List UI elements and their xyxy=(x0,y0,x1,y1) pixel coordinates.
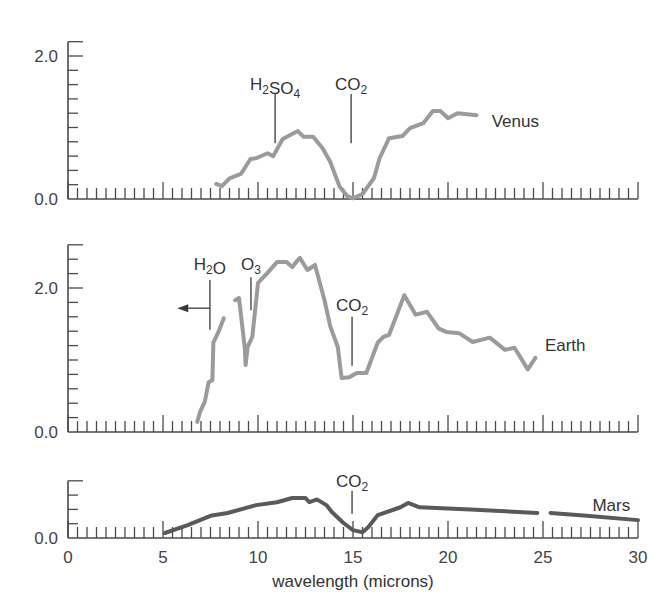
absorption-label: O3 xyxy=(241,255,261,277)
absorption-label: H2O xyxy=(194,255,226,278)
y-tick-label: 0.0 xyxy=(34,190,58,209)
x-tick-label: 10 xyxy=(249,548,268,567)
x-axis-title: wavelength (microns) xyxy=(271,572,434,591)
spectra-figure: 0.02.0H2SO4CO2Venus0.02.0H2OO3CO2Earth0.… xyxy=(0,0,668,615)
spectrum-curve-earth xyxy=(197,318,224,422)
x-tick-label: 15 xyxy=(344,548,363,567)
y-tick-label: 2.0 xyxy=(34,47,58,66)
absorption-label: CO2 xyxy=(336,296,369,318)
panel-label-mars: Mars xyxy=(592,496,630,515)
panel-venus: 0.02.0H2SO4CO2Venus xyxy=(34,42,638,209)
absorption-label: CO2 xyxy=(336,472,369,494)
absorption-label: CO2 xyxy=(335,75,368,97)
spectrum-curve-mars xyxy=(165,498,537,533)
y-tick-label: 0.0 xyxy=(34,529,58,548)
y-tick-label: 2.0 xyxy=(34,279,58,298)
panel-label-earth: Earth xyxy=(545,336,586,355)
spectrum-curve-venus xyxy=(216,111,476,198)
y-tick-label: 0.0 xyxy=(34,423,58,442)
absorption-label: H2SO4 xyxy=(250,75,301,101)
spectrum-curve-earth xyxy=(235,258,535,378)
panel-mars: 0.0CO2Mars xyxy=(34,472,638,548)
x-tick-label: 20 xyxy=(439,548,458,567)
arrowhead-icon xyxy=(177,304,188,312)
x-tick-label: 5 xyxy=(158,548,167,567)
x-tick-label: 25 xyxy=(534,548,553,567)
panels-group: 0.02.0H2SO4CO2Venus0.02.0H2OO3CO2Earth0.… xyxy=(34,42,638,548)
x-tick-label: 0 xyxy=(63,548,72,567)
panel-label-venus: Venus xyxy=(492,112,539,131)
x-tick-label: 30 xyxy=(629,548,648,567)
panel-earth: 0.02.0H2OO3CO2Earth xyxy=(34,245,638,442)
x-tick-labels: 051015202530 xyxy=(63,548,647,567)
